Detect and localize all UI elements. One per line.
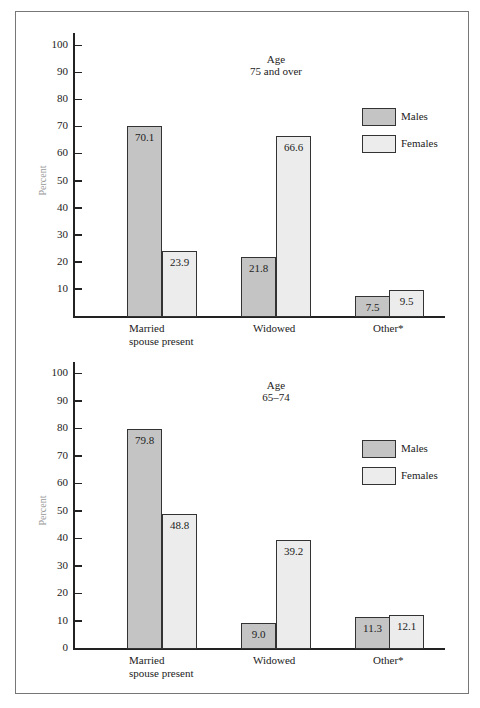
bar-females: 12.1 — [389, 615, 424, 649]
legend-swatch-males — [362, 440, 396, 458]
y-tick — [74, 455, 82, 457]
bar-males: 11.3 — [355, 617, 390, 649]
bar-females: 39.2 — [276, 540, 311, 649]
category-label: Widowed — [253, 654, 295, 667]
y-tick-label: 100 — [38, 367, 68, 378]
bar-females: 48.8 — [162, 514, 197, 649]
bar-value-label: 11.3 — [356, 622, 389, 634]
bar-value-label: 12.1 — [390, 620, 423, 632]
category-label: Other* — [373, 654, 404, 667]
y-tick-label: 80 — [38, 422, 68, 433]
y-tick — [74, 483, 82, 485]
bar-value-label: 79.8 — [128, 434, 161, 446]
y-tick — [74, 565, 82, 567]
bar-males: 9.0 — [241, 623, 276, 649]
category-label: Marriedspouse present — [129, 654, 193, 680]
y-tick — [74, 373, 82, 375]
y-tick-label: 20 — [38, 587, 68, 598]
bar-males: 79.8 — [127, 429, 162, 649]
bar-value-label: 39.2 — [277, 545, 310, 557]
y-tick-label: 10 — [38, 615, 68, 626]
legend-label: Males — [401, 442, 428, 454]
y-tick — [74, 538, 82, 540]
y-tick-label: 90 — [38, 395, 68, 406]
y-tick — [74, 593, 82, 595]
bar-value-label: 9.0 — [242, 628, 275, 640]
y-tick — [74, 428, 82, 430]
chart-title: Age65–74 — [196, 379, 356, 403]
bar-value-label: 48.8 — [163, 519, 196, 531]
legend-swatch-females — [362, 467, 396, 485]
legend-label: Females — [401, 469, 438, 481]
y-tick-label: 30 — [38, 560, 68, 571]
y-axis — [73, 362, 75, 649]
y-tick-label: 70 — [38, 450, 68, 461]
y-tick-label: 0 — [38, 642, 68, 653]
chart-age-65-74: 0102030405060708090100PercentAge65–7479.… — [0, 0, 480, 708]
y-tick — [74, 620, 82, 622]
y-axis-label: Percent — [37, 480, 48, 540]
y-tick — [74, 400, 82, 402]
y-tick — [74, 510, 82, 512]
